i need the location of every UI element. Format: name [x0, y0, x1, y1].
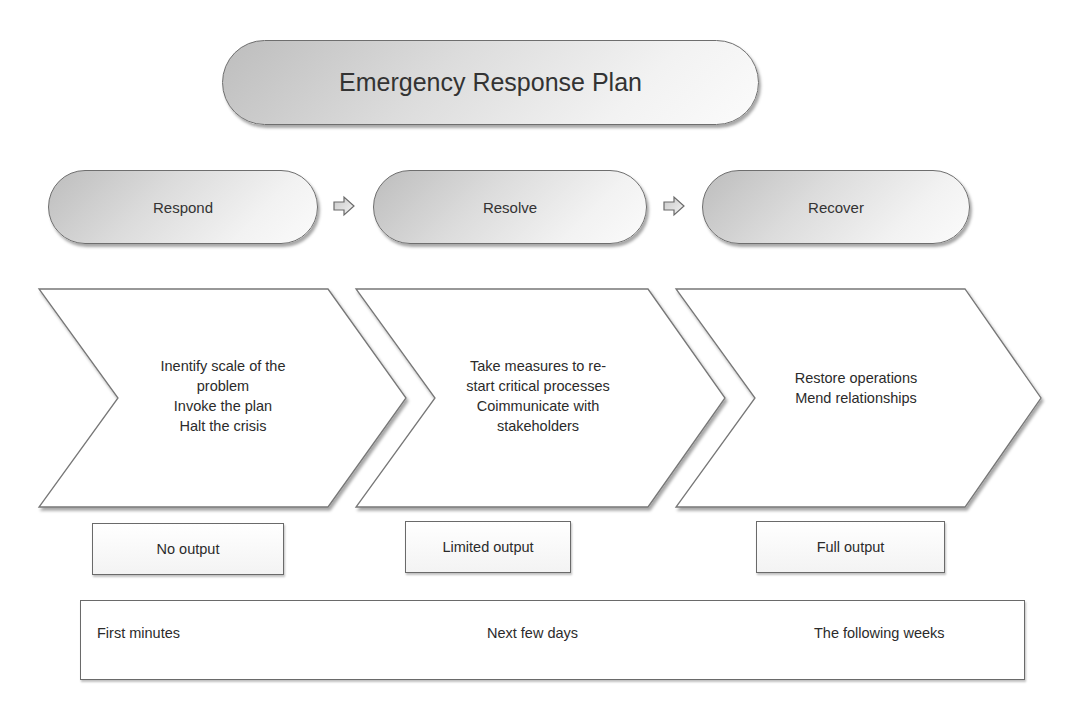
- chevron-line: Restore operations: [743, 368, 969, 388]
- chevron-line: Coimmunicate with: [425, 396, 651, 416]
- chevron-text: Take measures to re- start critical proc…: [425, 356, 651, 436]
- phase-recover: Recover: [702, 170, 970, 244]
- right-arrow-icon: [662, 194, 686, 218]
- phase-label: Resolve: [483, 199, 537, 216]
- diagram-title: Emergency Response Plan: [339, 68, 642, 97]
- output-label: No output: [157, 541, 220, 557]
- chevron-resolve: Take measures to re- start critical proc…: [355, 288, 727, 508]
- chevron-text: Inentify scale of the problem Invoke the…: [110, 356, 336, 436]
- timeline-label-first-minutes: First minutes: [97, 625, 180, 641]
- chevron-line: Invoke the plan: [110, 396, 336, 416]
- chevron-text: Restore operations Mend relationships: [743, 368, 969, 408]
- timeline-box: First minutes Next few days The followin…: [80, 600, 1025, 680]
- output-box-none: No output: [92, 523, 284, 575]
- chevron-line: start critical processes: [425, 376, 651, 396]
- timeline-label-following-weeks: The following weeks: [814, 625, 945, 641]
- output-box-full: Full output: [756, 521, 945, 573]
- phase-respond: Respond: [48, 170, 318, 244]
- title-banner: Emergency Response Plan: [222, 40, 759, 125]
- chevron-line: Take measures to re-: [425, 356, 651, 376]
- timeline-label-next-few-days: Next few days: [487, 625, 578, 641]
- chevron-line: Mend relationships: [743, 388, 969, 408]
- phase-resolve: Resolve: [373, 170, 647, 244]
- phase-label: Respond: [153, 199, 213, 216]
- output-label: Full output: [817, 539, 885, 555]
- right-arrow-icon: [332, 194, 356, 218]
- phase-label: Recover: [808, 199, 864, 216]
- output-label: Limited output: [442, 539, 533, 555]
- chevron-line: Inentify scale of the: [110, 356, 336, 376]
- chevron-line: stakeholders: [425, 416, 651, 436]
- output-box-limited: Limited output: [405, 521, 571, 573]
- chevron-recover: Restore operations Mend relationships: [675, 288, 1047, 508]
- chevron-line: problem: [110, 376, 336, 396]
- chevron-line: Halt the crisis: [110, 416, 336, 436]
